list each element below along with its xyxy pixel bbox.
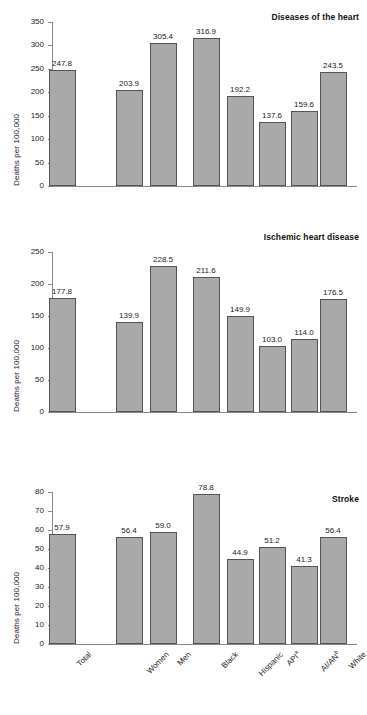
y-axis-tick xyxy=(48,644,52,645)
y-axis-tick-label: 50 xyxy=(6,544,44,553)
y-axis-tick-label: 20 xyxy=(6,601,44,610)
bar-value-label: 51.2 xyxy=(250,536,294,545)
y-axis-tick xyxy=(48,492,52,493)
bar-value-label: 44.9 xyxy=(218,548,262,557)
bar-ai-an xyxy=(291,566,318,644)
y-axis-tick-label: 60 xyxy=(6,525,44,534)
y-axis-tick-label: 30 xyxy=(6,582,44,591)
y-axis-tick-label: 80 xyxy=(6,487,44,496)
bar-value-label: 78.8 xyxy=(184,483,228,492)
bar-white xyxy=(320,537,347,644)
bar-women xyxy=(116,537,143,644)
bar-value-label: 59.0 xyxy=(141,521,185,530)
bar-men xyxy=(150,532,177,644)
y-axis-tick xyxy=(48,511,52,512)
y-axis-tick-label: 70 xyxy=(6,506,44,515)
bar-value-label: 57.9 xyxy=(40,523,84,532)
bar-black xyxy=(193,494,220,644)
triple-bar-chart-figure: Diseases of the heartDeaths per 100,0000… xyxy=(0,0,367,715)
x-axis-line xyxy=(52,644,357,645)
y-axis-tick-label: 10 xyxy=(6,620,44,629)
bar-hispanic xyxy=(227,559,254,644)
y-axis-tick-label: 40 xyxy=(6,563,44,572)
panel-title: Stroke xyxy=(332,494,359,504)
bar-value-label: 56.4 xyxy=(311,526,355,535)
y-axis-tick-label: 0 xyxy=(6,639,44,648)
bar-total xyxy=(49,534,76,644)
chart-panel-3: StrokeDeaths per 100,0000102030405060708… xyxy=(0,0,367,715)
